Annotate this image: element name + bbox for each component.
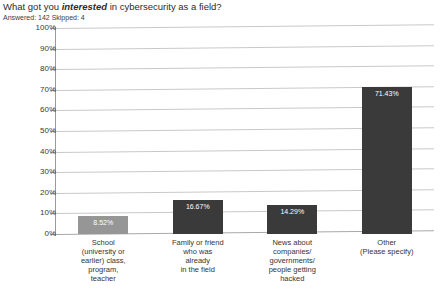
- category-label-line: in the field: [151, 265, 246, 274]
- bar-value-label: 14.29%: [267, 208, 317, 216]
- y-axis-tick-label: 20%: [8, 189, 56, 197]
- y-axis-tick-label: 40%: [8, 148, 56, 156]
- bar[interactable]: 8.52%: [78, 216, 128, 234]
- bar[interactable]: 71.43%: [362, 87, 412, 234]
- title-suffix: in cybersecurity as a field?: [107, 1, 222, 12]
- bar[interactable]: 14.29%: [267, 205, 317, 234]
- category-label-line: Other: [340, 238, 435, 247]
- y-axis-tick-group: 0%10%20%30%40%50%60%70%80%90%100%: [0, 28, 56, 234]
- y-axis-tick-label: 90%: [8, 45, 56, 53]
- y-axis-tick-label: 50%: [8, 127, 56, 135]
- x-axis-label-group: School(university orearlier) class,progr…: [56, 238, 434, 307]
- y-axis-tick-label: 100%: [8, 24, 56, 32]
- gridline: [56, 45, 434, 50]
- y-axis-tick-label: 80%: [8, 65, 56, 73]
- x-axis-category-label: News aboutcompanies/governments/people g…: [245, 238, 340, 283]
- y-axis-tick-label: 30%: [8, 168, 56, 176]
- title-prefix: What got you: [3, 1, 62, 12]
- y-axis-tick-label: 70%: [8, 86, 56, 94]
- y-axis-tick-label: 0%: [8, 230, 56, 238]
- bar-value-label: 16.67%: [173, 203, 223, 211]
- bar-value-label: 71.43%: [362, 90, 412, 98]
- gridline: [56, 24, 434, 29]
- category-label-line: people getting: [245, 265, 340, 274]
- x-axis-category-label: Family or friendwho wasalreadyin the fie…: [151, 238, 246, 274]
- category-label-line: governments/: [245, 256, 340, 265]
- bar[interactable]: 16.67%: [173, 200, 223, 234]
- bar-value-label: 8.52%: [78, 219, 128, 227]
- category-label-line: (Please specify): [340, 247, 435, 256]
- category-label-line: companies/: [245, 247, 340, 256]
- y-axis-tick-label: 10%: [8, 209, 56, 217]
- category-label-line: School: [56, 238, 151, 247]
- category-label-line: teacher: [56, 274, 151, 283]
- gridline: [56, 66, 434, 71]
- category-label-line: already: [151, 256, 246, 265]
- x-axis-category-label: School(university orearlier) class,progr…: [56, 238, 151, 283]
- bar-chart: 0%10%20%30%40%50%60%70%80%90%100% 8.52%1…: [0, 22, 440, 307]
- category-label-line: Family or friend: [151, 238, 246, 247]
- category-label-line: who was: [151, 247, 246, 256]
- page-title: What got you interested in cybersecurity…: [3, 1, 222, 12]
- category-label-line: program,: [56, 265, 151, 274]
- plot-area: 8.52%16.67%14.29%71.43%: [56, 28, 434, 234]
- response-summary: Answered: 142 Skipped: 4: [3, 13, 85, 22]
- x-axis-category-label: Other(Please specify): [340, 238, 435, 256]
- category-label-line: hacked: [245, 274, 340, 283]
- category-label-line: earlier) class,: [56, 256, 151, 265]
- title-emphasis: interested: [62, 1, 107, 12]
- category-label-line: News about: [245, 238, 340, 247]
- y-axis-tick-label: 60%: [8, 106, 56, 114]
- category-label-line: (university or: [56, 247, 151, 256]
